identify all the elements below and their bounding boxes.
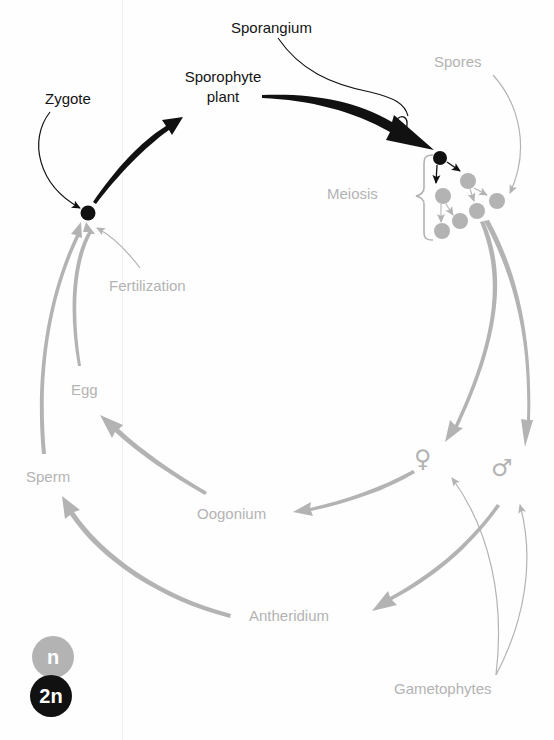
label-zygote: Zygote [45,90,91,108]
female-to-oogonium-arrow [293,470,415,516]
zygote-dot [81,206,96,221]
female-symbol-icon: ♀ [414,448,432,470]
meiosis-diploid-cell [433,151,447,165]
diagram-arrows [0,0,554,740]
gametophytes-pointer-male [496,505,527,675]
life-cycle-diagram: Zygote Sporangium Sporophyte plant Spore… [0,0,554,740]
label-gametophytes: Gametophytes [394,680,492,698]
meiosis-arrow-down [436,165,437,183]
meiosis-brace [416,155,433,240]
sporophyte-to-meiosis-arrow [262,95,434,150]
label-sperm: Sperm [26,468,70,486]
label-sporophyte-plant: Sporophyte plant [168,68,278,106]
label-egg: Egg [71,381,98,399]
label-sporangium: Sporangium [231,19,312,37]
spores-to-female-arrow [445,221,497,442]
gametophytes-pointer-female [452,478,499,675]
label-oogonium: Oogonium [197,505,266,523]
meiosis-arrow-right [447,162,460,171]
haploid-cells [434,173,505,239]
fertilization-pointer-arrow [97,228,140,268]
label-sporophyte-line2: plant [168,88,278,106]
zygote-pointer-arrow [39,112,80,208]
label-meiosis: Meiosis [327,185,378,203]
label-sporophyte-line1: Sporophyte [168,68,278,86]
oogonium-to-egg-arrow [100,415,207,495]
legend-haploid-badge: n [32,636,74,678]
spores-pointer-arrow [493,75,521,193]
label-antheridium: Antheridium [249,607,329,625]
label-spores: Spores [434,53,482,71]
male-symbol-icon: ♂ [491,457,513,479]
label-fertilization: Fertilization [109,277,186,295]
zygote-to-sporophyte-arrow [93,117,183,204]
male-to-antheridium-arrow [372,504,500,611]
legend-diploid-badge: 2n [30,675,72,717]
